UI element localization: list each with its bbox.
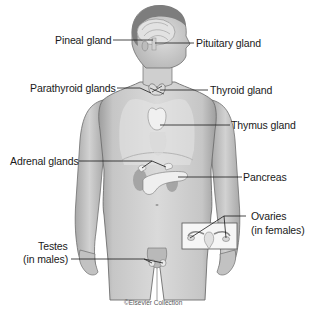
ovaries-inset: [182, 223, 237, 249]
label-adrenal-glands: Adrenal glands: [10, 155, 79, 167]
label-pineal-gland: Pineal gland: [55, 34, 112, 46]
right-hand: [217, 250, 236, 275]
label-thyroid-gland: Thyroid gland: [210, 84, 272, 96]
label-ovaries: Ovaries: [251, 210, 286, 222]
label-pancreas: Pancreas: [243, 171, 287, 183]
copyright-credit: ©Elsevier Collection: [124, 299, 182, 306]
testes: [147, 248, 166, 268]
label-testes: Testes: [38, 240, 68, 252]
label-thymus-gland: Thymus gland: [231, 119, 296, 131]
label-testes-note: (in males): [23, 253, 68, 265]
label-pituitary-gland: Pituitary gland: [196, 37, 261, 49]
left-hand: [79, 250, 98, 275]
label-ovaries-note: (in females): [251, 224, 305, 236]
label-parathyroid-glands: Parathyroid glands: [30, 82, 116, 94]
